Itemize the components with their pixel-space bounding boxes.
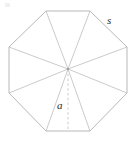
side-length-label: s [107, 15, 111, 26]
spoke-1 [46, 11, 68, 69]
octagon-svg [0, 0, 134, 145]
spoke-2 [68, 11, 90, 69]
spoke-7 [9, 69, 68, 93]
apothem-label: a [57, 100, 63, 111]
spoke-4 [68, 69, 127, 93]
octagon-diagram: s a [0, 0, 134, 145]
spoke-5 [68, 69, 90, 131]
scan-artifact [5, 3, 10, 7]
spoke-3 [68, 47, 127, 69]
spoke-8 [9, 47, 68, 69]
center-point [67, 68, 69, 70]
